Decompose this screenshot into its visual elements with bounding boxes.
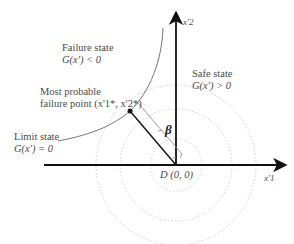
x-axis-label: x'1 [264,172,274,184]
failure-point-label: Most probable failure point (x'1*, x'2*) [40,86,142,110]
reliability-diagram: Failure state G(x') < 0 Safe state G(x')… [0,0,294,244]
diagram-canvas [0,0,294,244]
beta-symbol: β [165,124,172,136]
beta-distance-line [130,111,176,165]
failure-state-label: Failure state G(x') < 0 [62,42,114,66]
origin-label: D (0, 0) [160,169,193,181]
y-axis-label: x'2 [183,16,193,28]
limit-state-label: Limit state G(x') = 0 [14,131,59,155]
beta-bracket [134,103,182,158]
safe-state-label: Safe state G(x') > 0 [192,68,233,92]
